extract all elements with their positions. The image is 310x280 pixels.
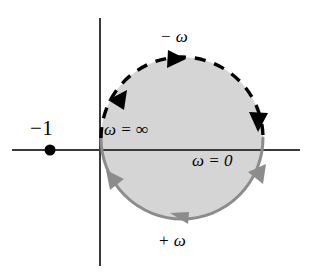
nyquist-contour-figure: −1 − ω + ω ω = ∞ ω = 0 [0,0,310,280]
critical-point-marker [45,145,56,156]
plot-canvas [0,0,310,280]
omega-infinity-label: ω = ∞ [104,121,148,138]
negative-frequency-label: − ω [160,28,188,45]
critical-point-label: −1 [30,118,53,139]
omega-zero-label: ω = 0 [192,152,232,169]
positive-frequency-label: + ω [158,232,186,249]
